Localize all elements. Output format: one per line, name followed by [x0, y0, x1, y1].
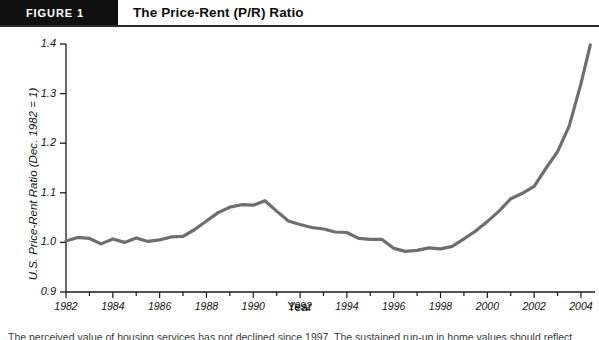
y-tick-label: 1.1	[22, 186, 56, 198]
y-tick-label: 1.4	[22, 37, 56, 49]
price-rent-ratio-series	[66, 45, 590, 251]
x-tick-label: 1988	[184, 300, 228, 312]
x-tick-label: 1984	[91, 300, 135, 312]
y-axis-ticks	[60, 44, 66, 292]
y-tick-label: 0.9	[22, 285, 56, 297]
x-tick-label: 1986	[138, 300, 182, 312]
x-tick-label: 2002	[512, 300, 556, 312]
y-tick-label: 1.0	[22, 235, 56, 247]
x-tick-label: 1982	[44, 300, 88, 312]
x-tick-label: 1994	[325, 300, 369, 312]
header-divider	[0, 25, 599, 27]
x-tick-label: 2000	[465, 300, 509, 312]
series-line-price-rent-ratio	[66, 45, 590, 251]
y-tick-label: 1.2	[22, 136, 56, 148]
x-tick-label: 2004	[559, 300, 599, 312]
x-tick-label: 1998	[419, 300, 463, 312]
figure-header: FIGURE 1 The Price-Rent (P/R) Ratio	[0, 0, 599, 25]
line-chart-plot	[0, 28, 599, 318]
x-tick-label: 1992	[278, 300, 322, 312]
x-tick-label: 1996	[372, 300, 416, 312]
figure-caption: The perceived value of housing services …	[8, 331, 591, 340]
figure-number-badge: FIGURE 1	[0, 0, 118, 25]
y-tick-label: 1.3	[22, 87, 56, 99]
chart-container: U.S. Price-Rent Ratio (Dec. 1982 = 1) Ye…	[0, 28, 599, 318]
x-axis-ticks	[66, 292, 581, 298]
figure-title: The Price-Rent (P/R) Ratio	[133, 0, 304, 25]
chart-axes	[66, 44, 595, 292]
x-tick-label: 1990	[231, 300, 275, 312]
